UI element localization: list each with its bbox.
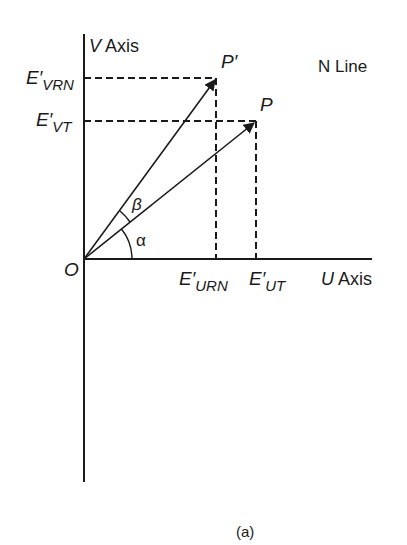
vector-diagram: VAxis E′VRN E′VT P′ P N Line β α O E′URN… (0, 0, 407, 545)
figure-caption: (a) (236, 523, 254, 540)
projection-lines (84, 78, 256, 259)
beta-label: β (131, 195, 142, 214)
origin-label: O (64, 259, 79, 280)
e-ut-label: E′UT (249, 268, 287, 294)
p-prime-label: P′ (221, 51, 239, 72)
beta-arc (120, 211, 130, 222)
n-line-label: N Line (318, 57, 367, 76)
e-vt-label: E′VT (36, 109, 73, 135)
u-axis-label: UAxis (321, 269, 372, 289)
alpha-label: α (136, 231, 146, 250)
v-axis-label: VAxis (89, 36, 139, 56)
e-vrn-label: E′VRN (26, 67, 74, 93)
alpha-arc (122, 229, 133, 259)
p-label: P (260, 94, 273, 115)
e-urn-label: E′URN (179, 268, 228, 294)
